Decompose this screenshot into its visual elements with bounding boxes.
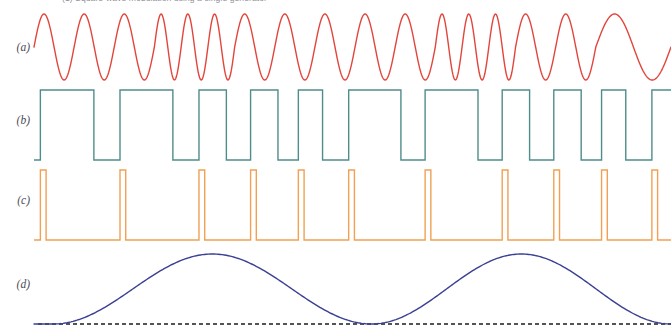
signal-waveform-figure: (1) Square-wave modulation using a singl… [0, 0, 671, 330]
waveform-b-square-data [34, 86, 671, 164]
waveform-d-raised-cosine [34, 246, 671, 330]
trace-row-a: (a) [0, 8, 671, 86]
trace-label-a: (a) [0, 41, 30, 53]
trace-label-b: (b) [0, 114, 30, 126]
waveform-a-fsk-carrier [34, 8, 671, 86]
figure-caption-clipped: (1) Square-wave modulation using a singl… [62, 0, 482, 3]
trace-row-d: (d) [0, 246, 671, 330]
trace-row-c: (c) [0, 166, 671, 244]
trace-row-b: (b) [0, 86, 671, 164]
trace-label-c: (c) [0, 194, 30, 206]
trace-label-d: (d) [0, 278, 30, 290]
waveform-c-clock-spikes [34, 166, 671, 244]
